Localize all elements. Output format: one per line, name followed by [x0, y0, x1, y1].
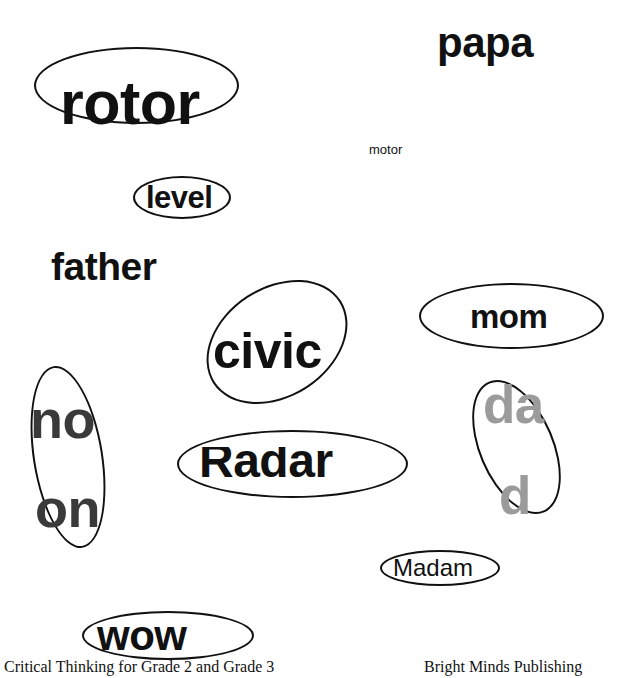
- word-wow: wow: [97, 615, 187, 657]
- word-motor: motor: [369, 143, 402, 156]
- word-dad-bottom: d: [499, 475, 545, 523]
- word-madam: Madam: [393, 556, 473, 580]
- word-father: father: [51, 247, 156, 286]
- word-radar: Radar: [199, 447, 394, 479]
- word-rotor: rotor: [60, 73, 200, 134]
- word-papa: papa: [437, 22, 533, 64]
- footer-left-text: Critical Thinking for Grade 2 and Grade …: [4, 658, 274, 676]
- word-radar-text: Radar: [199, 447, 394, 479]
- word-level: level: [146, 182, 212, 213]
- word-mom: mom: [470, 300, 547, 333]
- word-dad-top-text: da: [483, 383, 553, 429]
- worksheet-page: rotor papa motor level father civic mom …: [0, 0, 632, 678]
- word-no: no: [30, 392, 95, 446]
- word-civic: civic: [213, 326, 322, 376]
- footer-right-text: Bright Minds Publishing: [424, 658, 582, 676]
- word-dad-top: da: [483, 383, 553, 429]
- word-dad-bottom-text: d: [499, 475, 545, 522]
- word-on: on: [35, 481, 100, 535]
